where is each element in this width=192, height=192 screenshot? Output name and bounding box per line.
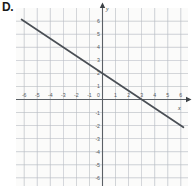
x-tick-label: -5	[35, 92, 40, 98]
panel-label: D.	[2, 1, 13, 13]
y-tick-label: 6	[97, 18, 100, 24]
y-tick-label: 5	[97, 31, 100, 37]
y-tick-label: -5	[95, 162, 100, 168]
x-tick-label: 6	[179, 92, 182, 98]
y-tick-label: -3	[95, 136, 100, 142]
x-axis-label: x	[177, 105, 181, 111]
x-tick-label: 4	[153, 92, 156, 98]
y-tick-label: -1	[95, 110, 100, 116]
x-tick-label: 1	[114, 92, 117, 98]
x-tick-label: -6	[22, 92, 27, 98]
y-tick-label: 3	[97, 57, 100, 63]
y-tick-label: 4	[97, 44, 100, 50]
y-tick-label: -2	[95, 123, 100, 129]
x-tick-label: 2	[127, 92, 130, 98]
x-tick-label: -3	[61, 92, 66, 98]
x-tick-label: -4	[48, 92, 53, 98]
y-tick-label: 1	[97, 83, 100, 89]
graph-panel-d: D. -6-5-4-3-2-10123456 654321-1-2-3-4-5-…	[0, 0, 192, 192]
x-tick-label: -2	[74, 92, 79, 98]
coordinate-plane: -6-5-4-3-2-10123456 654321-1-2-3-4-5-6 x…	[0, 0, 192, 192]
x-tick-label: 5	[166, 92, 169, 98]
y-axis-label: y	[105, 6, 109, 12]
x-tick-label: -1	[87, 92, 92, 98]
y-tick-label: -4	[95, 149, 100, 155]
y-tick-label: -6	[95, 175, 100, 181]
x-tick-label: 3	[140, 92, 143, 98]
x-tick-label: 0	[97, 92, 100, 98]
